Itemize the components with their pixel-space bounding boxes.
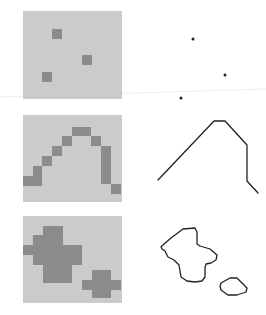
row-polygons	[23, 216, 247, 303]
vector-point	[180, 97, 183, 100]
grid-cell	[82, 55, 92, 65]
grid-background	[23, 11, 122, 99]
grid-cell	[91, 136, 101, 146]
raster-grid-line	[23, 115, 122, 202]
grid-cell	[52, 146, 62, 156]
grid-cell	[33, 255, 82, 265]
row-points	[23, 11, 227, 100]
raster-grid-regions	[23, 216, 122, 303]
grid-cell	[42, 72, 52, 82]
raster-vector-diagram	[0, 0, 266, 315]
vector-point	[224, 74, 227, 77]
vector-polygons	[161, 228, 247, 295]
grid-cell	[62, 136, 72, 146]
grid-cell	[101, 146, 111, 184]
grid-cell	[43, 226, 63, 235]
row-lines	[23, 115, 258, 202]
grid-cell	[92, 290, 111, 298]
vector-polygon	[161, 228, 217, 282]
vector-line	[158, 121, 258, 193]
grid-cell	[23, 245, 82, 255]
grid-cell	[92, 270, 111, 280]
vector-polygon	[220, 278, 247, 295]
grid-cell	[52, 29, 62, 39]
vector-polyline	[158, 121, 258, 193]
grid-cell	[23, 176, 42, 186]
vector-point	[192, 38, 195, 41]
raster-grid-points	[23, 11, 122, 99]
grid-cell	[82, 280, 121, 290]
grid-cell	[72, 127, 91, 136]
grid-cell	[111, 184, 121, 194]
grid-cell	[42, 156, 52, 166]
grid-cell	[33, 166, 42, 176]
grid-cell	[43, 265, 72, 283]
grid-cell	[33, 235, 63, 245]
diagram-canvas	[0, 0, 266, 315]
